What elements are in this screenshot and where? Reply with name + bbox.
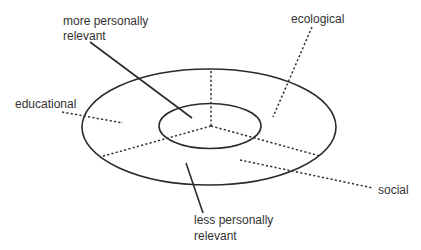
less-relevant-label-line2: relevant (194, 229, 237, 243)
educational-leader (62, 112, 123, 123)
less-relevant-leader (186, 163, 203, 213)
divider-lower-right (211, 126, 320, 156)
social-label: social (378, 183, 409, 197)
more-relevant-leader (90, 42, 192, 118)
ecological-label: ecological (291, 12, 344, 26)
relevance-diagram: more personally relevant educational eco… (0, 0, 421, 250)
divider-lower-left (100, 126, 211, 157)
educational-label: educational (15, 97, 76, 111)
more-relevant-label-line1: more personally (63, 14, 148, 28)
ecological-leader (273, 27, 312, 117)
more-relevant-label-line2: relevant (63, 29, 106, 43)
less-relevant-label-line1: less personally (194, 213, 273, 227)
